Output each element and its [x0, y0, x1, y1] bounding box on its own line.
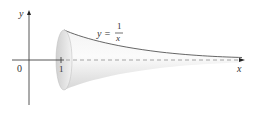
- curve-label-numerator: 1: [117, 22, 122, 31]
- tick-one-label: 1: [59, 65, 64, 74]
- y-axis-label: y: [19, 9, 23, 19]
- curve-label-lhs: y =: [97, 29, 111, 39]
- y-axis-arrow: [27, 10, 31, 15]
- x-axis-label: x: [237, 64, 241, 74]
- curve-label-denominator: x: [116, 34, 120, 43]
- origin-label: 0: [17, 64, 22, 74]
- horn-diagram: [0, 0, 255, 114]
